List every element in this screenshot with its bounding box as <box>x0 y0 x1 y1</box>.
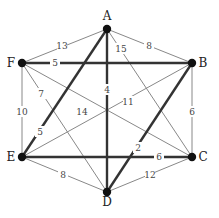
edge-weight-AE: 5 <box>37 127 43 137</box>
edge-weight-FD: 7 <box>38 89 44 99</box>
node-E <box>18 153 26 161</box>
edge-weight-EF: 10 <box>16 107 28 117</box>
node-label-C: C <box>198 150 207 164</box>
node-C <box>188 153 196 161</box>
weighted-graph: 138156128107141154562ABCDEF <box>0 0 219 218</box>
node-label-F: F <box>7 56 15 70</box>
node-label-A: A <box>102 9 112 23</box>
edge-weight-AC: 15 <box>115 44 127 54</box>
edge-weight-AD: 4 <box>104 85 110 95</box>
node-A <box>103 25 111 33</box>
node-label-B: B <box>199 56 208 70</box>
edge-weight-BC: 6 <box>189 107 195 117</box>
node-F <box>18 59 26 67</box>
node-B <box>188 59 196 67</box>
node-label-E: E <box>7 150 16 164</box>
edge-weight-EB: 11 <box>122 97 133 107</box>
edge-weight-CD: 12 <box>144 170 155 180</box>
edge-weight-EC: 6 <box>156 152 162 162</box>
edge-weight-DE: 8 <box>60 170 66 180</box>
edge-weight-FB: 5 <box>52 58 58 68</box>
edge-weight-AB: 8 <box>146 41 152 51</box>
edge-weight-AF: 13 <box>56 41 68 51</box>
edge-weight-FC: 14 <box>76 107 88 117</box>
node-label-D: D <box>102 195 112 209</box>
edge-weight-DB: 2 <box>135 143 141 153</box>
